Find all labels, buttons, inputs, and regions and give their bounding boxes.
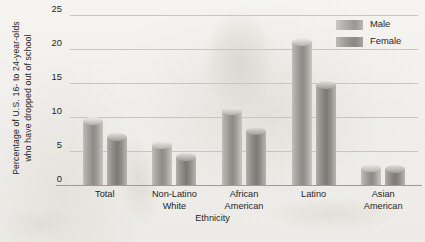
- bar-female-latino: [316, 81, 336, 185]
- y-axis-title: Percentage of U.S. 16- to 24-year-olds w…: [0, 0, 44, 195]
- bar-top-cap: [107, 133, 127, 141]
- y-axis-tick-label: 15: [32, 71, 62, 82]
- bar-body: [83, 121, 103, 185]
- chart-page: Percentage of U.S. 16- to 24-year-olds w…: [0, 0, 425, 242]
- bar-body: [246, 131, 266, 185]
- gridline: [70, 117, 418, 118]
- bar-body: [316, 85, 336, 185]
- bar-body: [292, 42, 312, 185]
- bar-female-non-latino-white: [176, 153, 196, 185]
- bar-body: [152, 145, 172, 185]
- bar-top-cap: [83, 117, 103, 125]
- bar-male-asian-american: [361, 164, 381, 185]
- x-axis-title: Ethnicity: [0, 213, 425, 223]
- x-axis-tick-label-line: Asian: [338, 189, 425, 201]
- legend-label-male: Male: [370, 18, 390, 29]
- y-axis-tick-label: 10: [32, 105, 62, 116]
- bar-top-cap: [316, 81, 336, 89]
- legend-item-female: Female: [336, 35, 422, 52]
- bar-female-african-american: [246, 127, 266, 185]
- legend-swatch-female: [336, 37, 363, 47]
- x-axis-tick-label-line: American: [199, 201, 289, 213]
- bar-body: [176, 157, 196, 185]
- y-axis-tick-label: 5: [32, 139, 62, 150]
- legend-item-male: Male: [336, 18, 422, 35]
- bar-female-asian-american: [385, 165, 405, 185]
- bar-top-cap: [152, 141, 172, 149]
- bar-body: [222, 111, 242, 185]
- bar-male-non-latino-white: [152, 141, 172, 185]
- y-axis-title-line1: Percentage of U.S. 16- to 24-year-olds: [10, 21, 22, 175]
- x-axis-tick-label: AsianAmerican: [338, 189, 425, 212]
- x-axis-line: [56, 185, 422, 186]
- gridline: [70, 83, 418, 84]
- x-axis-tick-label-line: American: [338, 201, 425, 213]
- bar-male-latino: [292, 38, 312, 185]
- bar-body: [107, 137, 127, 185]
- gridline: [70, 15, 418, 16]
- bar-top-cap: [292, 38, 312, 46]
- legend-swatch-male: [336, 20, 363, 30]
- y-axis-tick-label: 25: [32, 3, 62, 14]
- bar-male-african-american: [222, 107, 242, 185]
- legend: Male Female: [336, 18, 422, 52]
- bar-male-total: [83, 117, 103, 185]
- y-axis-tick-label: 0: [32, 173, 62, 184]
- bar-top-cap: [222, 107, 242, 115]
- legend-label-female: Female: [370, 35, 401, 46]
- bar-female-total: [107, 133, 127, 185]
- y-axis-tick-label: 20: [32, 37, 62, 48]
